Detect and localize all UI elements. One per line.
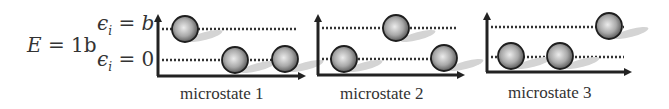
microstate-3-label: microstate 3	[508, 83, 592, 103]
particle-ball	[331, 46, 357, 72]
microstate-1-plot	[157, 16, 324, 76]
particle-ball	[383, 15, 409, 41]
particle-ball	[431, 45, 457, 71]
particle-ball	[172, 16, 198, 42]
particle-ball	[272, 46, 298, 72]
microstate-2-label: microstate 2	[340, 84, 424, 104]
microstate-1-label: microstate 1	[180, 84, 264, 104]
particle-ball	[547, 43, 573, 69]
particle-ball	[498, 43, 524, 69]
microstate-2-plot	[317, 15, 484, 75]
particle-ball	[222, 47, 248, 73]
microstate-3-plot	[486, 13, 649, 72]
particle-ball	[596, 13, 622, 39]
